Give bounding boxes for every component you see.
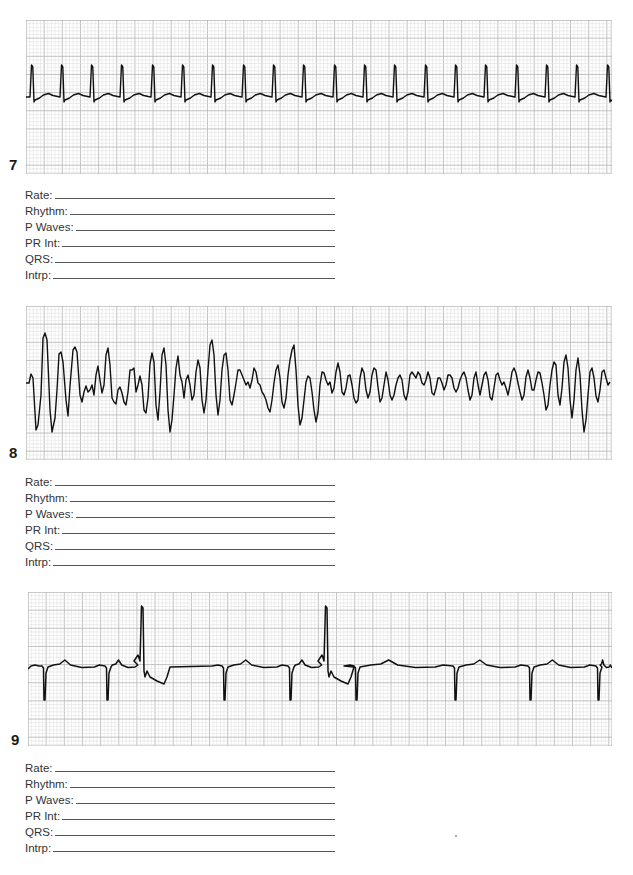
- answer-fields-7: Rate: Rhythm: P Waves: PR Int: QRS: Intr…: [25, 186, 335, 282]
- answer-line[interactable]: [55, 825, 335, 836]
- answer-line[interactable]: [62, 523, 335, 534]
- ecg-strip-7: [26, 20, 612, 174]
- rhythm-field[interactable]: Rhythm:: [25, 202, 335, 218]
- rate-field[interactable]: Rate:: [25, 759, 335, 775]
- answer-line[interactable]: [70, 204, 335, 215]
- pr-int-field[interactable]: PR Int:: [25, 234, 335, 250]
- intrp-field[interactable]: Intrp:: [25, 839, 335, 855]
- answer-line[interactable]: [55, 252, 335, 263]
- grid-7: [26, 20, 612, 174]
- answer-line[interactable]: [70, 491, 335, 502]
- qrs-field[interactable]: QRS:: [25, 537, 335, 553]
- grid-8: [26, 306, 612, 460]
- grid-9: [28, 592, 612, 746]
- answer-line[interactable]: [53, 268, 335, 279]
- pr-int-field[interactable]: PR Int:: [25, 521, 335, 537]
- answer-line[interactable]: [62, 236, 335, 247]
- strip-number-8: 8: [9, 444, 17, 461]
- answer-line[interactable]: [53, 841, 335, 852]
- p-waves-field[interactable]: P Waves:: [25, 505, 335, 521]
- strip-number-9: 9: [11, 731, 19, 748]
- rate-field[interactable]: Rate:: [25, 186, 335, 202]
- p-waves-field[interactable]: P Waves:: [25, 791, 335, 807]
- answer-line[interactable]: [76, 793, 335, 804]
- answer-fields-8: Rate: Rhythm: P Waves: PR Int: QRS: Intr…: [25, 473, 335, 569]
- rate-field[interactable]: Rate:: [25, 473, 335, 489]
- answer-line[interactable]: [55, 761, 336, 772]
- answer-line[interactable]: [76, 507, 335, 518]
- intrp-field[interactable]: Intrp:: [25, 266, 335, 282]
- answer-line[interactable]: [62, 809, 335, 820]
- answer-line[interactable]: [55, 188, 336, 199]
- answer-line[interactable]: [70, 777, 335, 788]
- answer-line[interactable]: [53, 555, 335, 566]
- rhythm-field[interactable]: Rhythm:: [25, 775, 335, 791]
- answer-line[interactable]: [55, 475, 336, 486]
- answer-line[interactable]: [55, 539, 335, 550]
- rhythm-field[interactable]: Rhythm:: [25, 489, 335, 505]
- answer-line[interactable]: [76, 220, 335, 231]
- ecg-strip-8: [26, 306, 612, 460]
- paper-speck: [455, 835, 457, 837]
- intrp-field[interactable]: Intrp:: [25, 553, 335, 569]
- ecg-strip-9: [28, 592, 612, 746]
- qrs-field[interactable]: QRS:: [25, 250, 335, 266]
- pr-int-field[interactable]: PR Int:: [25, 807, 335, 823]
- p-waves-field[interactable]: P Waves:: [25, 218, 335, 234]
- strip-number-7: 7: [9, 156, 17, 173]
- qrs-field[interactable]: QRS:: [25, 823, 335, 839]
- answer-fields-9: Rate: Rhythm: P Waves: PR Int: QRS: Intr…: [25, 759, 335, 855]
